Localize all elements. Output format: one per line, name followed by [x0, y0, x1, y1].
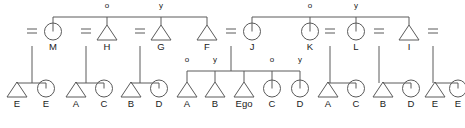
younger-marker: y — [326, 2, 386, 10]
male-triangle-A — [177, 82, 197, 97]
node-label-M: M — [23, 42, 83, 52]
male-triangle-B — [373, 82, 393, 97]
younger-marker: y — [185, 56, 245, 64]
node-label-H: H — [77, 42, 137, 52]
male-triangle-I — [399, 25, 419, 40]
male-triangle-B — [121, 82, 141, 97]
male-triangle-A — [66, 82, 86, 97]
male-triangle-B — [205, 82, 225, 97]
male-triangle-E — [425, 82, 445, 97]
male-triangle-E — [7, 82, 27, 97]
older-marker: o — [77, 2, 137, 10]
male-triangle-F — [197, 25, 217, 40]
node-label-L: L — [326, 42, 386, 52]
node-label-I: I — [379, 42, 439, 52]
male-triangle-A — [318, 82, 338, 97]
younger-marker: y — [270, 56, 330, 64]
male-triangle-H — [97, 25, 117, 40]
male-triangle-Ego — [234, 82, 254, 97]
younger-marker: y — [131, 2, 191, 10]
node-label-E: E — [428, 99, 465, 109]
kinship-diagram: MHoGyFJKoLyIEEACBDAoByEgoCoDyACBDEE — [0, 0, 465, 128]
male-triangle-G — [151, 25, 171, 40]
node-label-J: J — [222, 42, 282, 52]
